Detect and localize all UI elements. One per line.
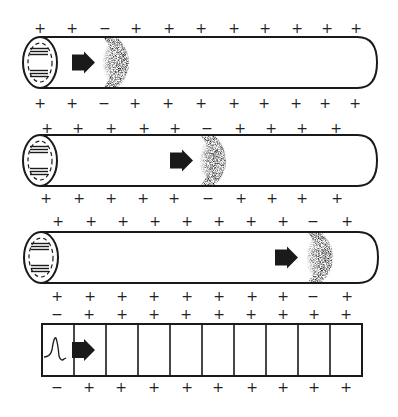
- positive-charge-above: +: [330, 120, 342, 136]
- positive-charge-above: +: [228, 20, 240, 36]
- positive-charge-above: +: [117, 213, 129, 229]
- positive-charge-below: +: [148, 379, 160, 395]
- depolarization-wavefront: [306, 233, 334, 282]
- negative-charge-below: −: [51, 379, 63, 395]
- positive-charge-below: +: [84, 288, 96, 304]
- positive-charge-above: +: [195, 20, 207, 36]
- positive-charge-above: +: [277, 306, 289, 322]
- positive-charge-above: +: [169, 120, 181, 136]
- right-arrow-icon: [72, 339, 95, 361]
- positive-charge-above: +: [148, 306, 160, 322]
- positive-charge-above: +: [180, 306, 192, 322]
- positive-charge-above: +: [116, 306, 128, 322]
- positive-charge-below: +: [105, 190, 117, 206]
- positive-charge-above: +: [296, 120, 308, 136]
- negative-charge-above: −: [51, 306, 63, 322]
- positive-charge-below: +: [349, 95, 361, 111]
- tubes-layer: ++−++++++++++−+++++++++++++−+++++++++−++…: [23, 20, 378, 304]
- segmented-membrane-bar: −+++++++++−+++++++++: [42, 306, 362, 395]
- positive-charge-above: +: [72, 120, 84, 136]
- positive-charge-below: +: [73, 190, 85, 206]
- positive-charge-below: +: [228, 95, 240, 111]
- positive-charge-above: +: [213, 213, 225, 229]
- positive-charge-below: +: [340, 379, 352, 395]
- negative-charge-above: −: [307, 213, 319, 229]
- positive-charge-above: +: [245, 306, 257, 322]
- positive-charge-below: +: [116, 288, 128, 304]
- negative-charge-below: −: [307, 288, 319, 304]
- positive-charge-below: +: [213, 288, 225, 304]
- positive-charge-below: +: [212, 379, 224, 395]
- positive-charge-above: +: [321, 20, 333, 36]
- positive-charge-below: +: [181, 288, 193, 304]
- positive-charge-below: +: [148, 288, 160, 304]
- axon-tube-1: ++−++++++++++−++++++++: [23, 20, 377, 111]
- depolarization-wavefront: [102, 38, 130, 87]
- positive-charge-below: +: [331, 190, 343, 206]
- axon-cross-section-icon: [23, 135, 57, 186]
- negative-charge-below: −: [98, 95, 110, 111]
- positive-charge-above: +: [350, 20, 362, 36]
- positive-charge-above: +: [265, 120, 277, 136]
- positive-charge-below: +: [246, 288, 258, 304]
- positive-charge-below: +: [235, 190, 247, 206]
- positive-charge-below: +: [290, 95, 302, 111]
- positive-charge-below: +: [181, 379, 193, 395]
- positive-charge-above: +: [66, 20, 78, 36]
- negative-charge-above: −: [201, 120, 213, 136]
- positive-charge-below: +: [168, 190, 180, 206]
- positive-charge-above: +: [130, 20, 142, 36]
- positive-charge-below: +: [195, 95, 207, 111]
- positive-charge-below: +: [258, 95, 270, 111]
- positive-charge-below: +: [266, 190, 278, 206]
- positive-charge-above: +: [259, 20, 271, 36]
- positive-charge-above: +: [52, 213, 64, 229]
- axon-propagation-diagram: ++−++++++++++−+++++++++++++−+++++++++−++…: [0, 0, 398, 417]
- positive-charge-above: +: [149, 213, 161, 229]
- positive-charge-above: +: [105, 120, 117, 136]
- positive-charge-below: +: [115, 379, 127, 395]
- positive-charge-above: +: [181, 213, 193, 229]
- positive-charge-above: +: [245, 213, 257, 229]
- right-arrow-icon: [72, 52, 95, 74]
- positive-charge-above: +: [163, 20, 175, 36]
- positive-charge-below: +: [83, 379, 95, 395]
- positive-charge-below: +: [34, 95, 46, 111]
- axon-cross-section-icon: [24, 232, 58, 283]
- action-potential-spike-icon: [44, 338, 66, 360]
- positive-charge-above: +: [213, 306, 225, 322]
- positive-charge-above: +: [291, 20, 303, 36]
- positive-charge-below: +: [246, 379, 258, 395]
- depolarization-wavefront: [199, 136, 227, 185]
- right-arrow-icon: [170, 150, 193, 172]
- positive-charge-below: +: [137, 190, 149, 206]
- positive-charge-above: +: [83, 306, 95, 322]
- positive-charge-above: +: [340, 306, 352, 322]
- positive-charge-above: +: [277, 213, 289, 229]
- positive-charge-above: +: [85, 213, 97, 229]
- positive-charge-below: +: [162, 95, 174, 111]
- positive-charge-below: +: [319, 95, 331, 111]
- right-arrow-icon: [275, 247, 298, 269]
- positive-charge-below: +: [40, 190, 52, 206]
- axon-tube-2: +++++−+++++++++−++++: [23, 120, 377, 206]
- positive-charge-below: +: [308, 379, 320, 395]
- positive-charge-above: +: [41, 120, 53, 136]
- positive-charge-below: +: [296, 190, 308, 206]
- positive-charge-below: +: [277, 379, 289, 395]
- positive-charge-above: +: [308, 306, 320, 322]
- positive-charge-below: +: [341, 288, 353, 304]
- positive-charge-above: +: [34, 20, 46, 36]
- positive-charge-above: +: [341, 213, 353, 229]
- positive-charge-below: +: [129, 95, 141, 111]
- negative-charge-above: −: [99, 20, 111, 36]
- axon-cross-section-icon: [23, 37, 57, 88]
- positive-charge-above: +: [234, 120, 246, 136]
- negative-charge-below: −: [202, 190, 214, 206]
- axon-tube-3: ++++++++−+++++++++−+: [24, 213, 378, 304]
- positive-charge-above: +: [138, 120, 150, 136]
- positive-charge-below: +: [66, 95, 78, 111]
- positive-charge-below: +: [51, 288, 63, 304]
- positive-charge-below: +: [277, 288, 289, 304]
